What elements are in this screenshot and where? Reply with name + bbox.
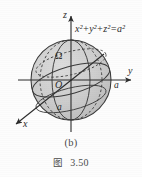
figure-caption-number: 3.50 — [70, 157, 89, 168]
y-intercept-label: a — [114, 80, 119, 90]
x-axis-label: x — [22, 118, 28, 129]
subfigure-label: (b) — [0, 137, 142, 148]
figure-caption: 图3.50 — [0, 155, 142, 169]
z-axis-label: z — [62, 9, 67, 20]
region-omega-label: Ω — [55, 50, 62, 61]
x-intercept-label: a — [57, 102, 62, 112]
origin-label: O — [55, 79, 62, 90]
figure-caption-cn: 图 — [53, 157, 63, 168]
sphere-diagram: x²+y²+z²=a² z y x Ω O a a — [0, 0, 142, 143]
figure-root: x²+y²+z²=a² z y x Ω O a a (b) 图3.50 — [0, 0, 142, 177]
y-axis-label: y — [127, 65, 133, 76]
sphere-equation: x²+y²+z²=a² — [74, 23, 126, 34]
